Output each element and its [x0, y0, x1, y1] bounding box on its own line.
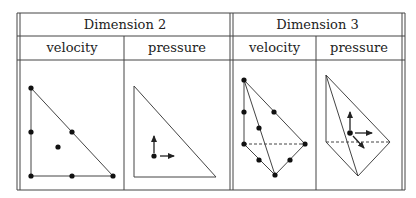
- header-dimension-3: Dimension 3: [233, 17, 402, 33]
- dim3-velocity-tetrahedron: [241, 77, 307, 177]
- header-dimension-2: Dimension 2: [20, 17, 230, 33]
- dim3-pressure-tetrahedron: [326, 75, 390, 176]
- dim2-velocity-triangle: [28, 85, 115, 178]
- dim3-velocity-header: velocity: [233, 40, 316, 56]
- dim2-velocity-header: velocity: [20, 40, 124, 56]
- dim2-pressure-header: pressure: [124, 40, 230, 56]
- dim2-pressure-triangle: [134, 86, 216, 177]
- dim3-pressure-header: pressure: [316, 40, 402, 56]
